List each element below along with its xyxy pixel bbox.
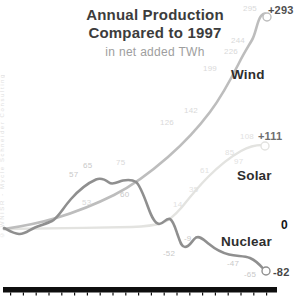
nuclear-end-value-label: -82 [273,266,290,278]
x-axis-tick [266,293,267,296]
wind-point-label: 295 [243,4,257,13]
chart-title-line1: Annual Production [52,6,258,24]
x-axis-tick [164,293,165,296]
nuclear-point-label: 65 [83,161,92,170]
x-axis-tick [125,293,126,296]
nuclear-line [4,179,264,270]
nuclear-point-label: -9 [184,234,192,243]
wind-point-label: 226 [224,47,238,56]
x-axis-tick [151,293,152,296]
nuclear-series-label: Nuclear [221,235,272,249]
x-axis-tick [36,293,37,296]
solar-point-label: 85 [225,148,234,157]
solar-point-label: 35 [189,185,198,194]
solar-point-label: 61 [200,166,209,175]
wind-series-label: Wind [231,68,265,82]
solar-point-label: 97 [234,157,243,166]
nuclear-point-label: -65 [244,270,256,279]
nuclear-point-label: 60 [120,190,129,199]
x-axis-tick [61,293,62,296]
x-axis-tick [23,293,24,296]
x-axis-tick [228,293,229,296]
x-axis-tick [138,293,139,296]
x-axis-tick [202,293,203,296]
wind-end-value-label: +293 [268,4,294,16]
solar-point-label: 14 [173,200,182,209]
nuclear-point-label: -47 [227,259,239,268]
solar-end-value-label: +111 [258,130,282,142]
solar-series-label: Solar [237,169,272,183]
solar-point-label: 108 [240,132,254,141]
wind-point-label: 53 [82,198,91,207]
x-axis-tick [87,293,88,296]
solar-line [4,145,262,229]
wind-point-label: 244 [231,36,245,45]
wind-point-label: 142 [184,106,198,115]
nuclear-point-label: 57 [69,170,78,179]
chart-figure: © WNISR - Mycle Schneider Consulting Ann… [0,0,300,301]
x-axis-tick [189,293,190,296]
x-axis-tick [48,293,49,296]
x-axis-tick [112,293,113,296]
chart-title-line2: Compared to 1997 [52,24,258,42]
x-axis-tick [215,293,216,296]
x-axis-tick [100,293,101,296]
x-axis-tick [176,293,177,296]
x-axis-bar [3,287,277,293]
wind-point-label: 75 [116,158,125,167]
wind-point-label: 199 [203,64,217,73]
x-axis-tick [253,293,254,296]
x-axis-tick [240,293,241,296]
nuclear-point-label: -52 [163,249,175,258]
wind-point-label: 126 [160,118,174,127]
x-axis-tick [74,293,75,296]
zero-baseline-label: 0 [281,219,288,232]
nuclear-endpoint-marker [262,267,270,275]
watermark-credit: © WNISR - Mycle Schneider Consulting [0,28,11,238]
solar-endpoint-marker [261,142,269,150]
x-axis-tick [10,293,11,296]
